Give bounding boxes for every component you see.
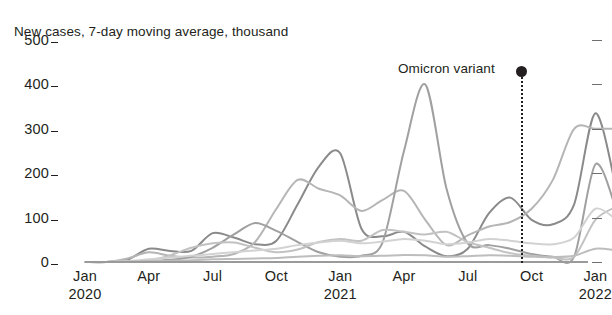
x-axis-tick-jul-2: Jul bbox=[203, 268, 222, 284]
x-axis-tick-jan-2021: Jan2021 bbox=[324, 268, 357, 302]
x-axis-month-label: Apr bbox=[392, 268, 415, 284]
right-axis-tick bbox=[592, 173, 602, 174]
x-axis-year-label: 2021 bbox=[324, 286, 357, 302]
x-axis-month-label: Jul bbox=[203, 268, 222, 284]
x-axis-month-label: Jan bbox=[579, 268, 612, 284]
series-svg bbox=[64, 40, 588, 262]
y-axis-tick-mark bbox=[51, 86, 58, 87]
omicron-annotation-label: Omicron variant bbox=[398, 61, 495, 76]
omicron-annotation-line bbox=[521, 77, 523, 263]
omicron-annotation-dot bbox=[516, 66, 527, 77]
y-axis-tick-500: 500 bbox=[24, 32, 58, 48]
x-axis-year-label: 2020 bbox=[68, 286, 101, 302]
x-axis: Jan2020AprJulOctJan2021AprJulOctJan2022 bbox=[0, 262, 607, 315]
y-axis-tick-300: 300 bbox=[24, 121, 58, 137]
y-axis-tick-label: 300 bbox=[24, 121, 49, 137]
right-axis-tick bbox=[592, 40, 602, 41]
y-axis-tick-mark bbox=[51, 131, 58, 132]
x-axis-month-label: Jan bbox=[324, 268, 357, 284]
x-axis-month-label: Apr bbox=[137, 268, 160, 284]
x-axis-year-label: 2022 bbox=[579, 286, 612, 302]
y-axis-tick-label: 400 bbox=[24, 76, 49, 92]
x-axis-tick-jan-2022: Jan2022 bbox=[579, 268, 612, 302]
x-axis-month-label: Oct bbox=[265, 268, 288, 284]
x-axis-month-label: Jan bbox=[68, 268, 101, 284]
y-axis-tick-label: 100 bbox=[24, 210, 49, 226]
y-axis-tick-label: 200 bbox=[24, 165, 49, 181]
right-axis-tick bbox=[592, 84, 602, 85]
x-axis-month-label: Oct bbox=[520, 268, 543, 284]
x-axis-tick-jan-2020: Jan2020 bbox=[68, 268, 101, 302]
x-axis-tick-oct-3: Oct bbox=[265, 268, 288, 284]
right-axis-tick bbox=[592, 129, 602, 130]
right-axis-tick bbox=[592, 218, 602, 219]
y-axis-tick-400: 400 bbox=[24, 76, 58, 92]
x-axis-month-label: Jul bbox=[458, 268, 477, 284]
x-axis-tick-apr-5: Apr bbox=[392, 268, 415, 284]
plot-area bbox=[64, 40, 588, 262]
y-axis-tick-label: 500 bbox=[24, 32, 49, 48]
x-axis-tick-jul-6: Jul bbox=[458, 268, 477, 284]
y-axis-tick-mark bbox=[51, 42, 58, 43]
series-line bbox=[85, 84, 612, 263]
y-axis-tick-100: 100 bbox=[24, 210, 58, 226]
x-axis-tick-oct-7: Oct bbox=[520, 268, 543, 284]
y-axis-tick-mark bbox=[51, 175, 58, 176]
y-axis-tick-mark bbox=[51, 220, 58, 221]
y-axis-tick-200: 200 bbox=[24, 165, 58, 181]
x-axis-tick-apr-1: Apr bbox=[137, 268, 160, 284]
